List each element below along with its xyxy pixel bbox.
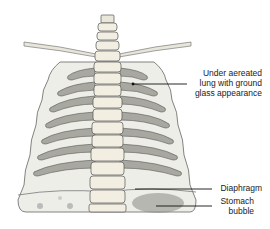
- label-line: bubble: [210, 206, 254, 216]
- stomach-bubble: [132, 193, 184, 213]
- label-line: lung with ground: [190, 78, 262, 88]
- clavicle-left: [24, 42, 96, 57]
- label-line: Under aereated: [190, 68, 262, 78]
- clavicle-right: [119, 42, 191, 57]
- label-diaphragm: Diaphragm: [210, 183, 262, 193]
- label-line: Stomach: [210, 196, 254, 206]
- spine: [89, 15, 126, 212]
- label-line: glass appearance: [190, 88, 262, 98]
- label-lung: Under aereated lung with ground glass ap…: [190, 68, 262, 98]
- label-line: Diaphragm: [210, 183, 262, 193]
- chest-illustration: [0, 0, 270, 229]
- label-stomach: Stomach bubble: [210, 196, 254, 216]
